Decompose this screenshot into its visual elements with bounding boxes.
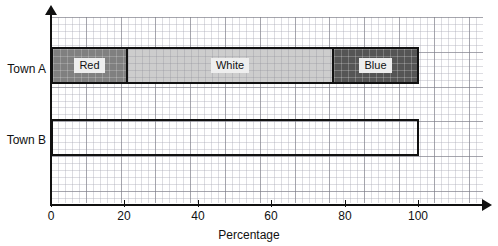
x-tick-mark [418, 200, 419, 207]
x-tick-label: 100 [408, 209, 428, 223]
x-axis-arrow-icon [482, 199, 492, 211]
x-tick-mark [345, 200, 346, 207]
category-label-town-a: Town A [0, 62, 46, 76]
category-label-town-b: Town B [0, 133, 46, 147]
bar-segment-white-label: White [211, 58, 249, 73]
x-tick-mark [198, 200, 199, 207]
bar-segment-red: Red [53, 49, 126, 82]
x-tick-mark [124, 200, 125, 207]
bar-segment-red-label: Red [74, 58, 104, 73]
x-tick-label: 80 [338, 209, 351, 223]
bar-town-b [51, 119, 419, 156]
bar-segment-blue: Blue [332, 49, 417, 82]
x-tick-label: 60 [264, 209, 277, 223]
bar-segment-white: White [126, 49, 332, 82]
y-axis-arrow-icon [45, 5, 57, 15]
x-tick-label: 40 [191, 209, 204, 223]
stacked-bar-chart: 0 20 40 60 80 100 Percentage Town A Town… [0, 0, 498, 246]
bar-town-a: Red White Blue [51, 47, 419, 84]
x-axis-title: Percentage [0, 228, 498, 242]
bar-segment-empty [53, 121, 417, 154]
grid-background [51, 17, 483, 203]
y-axis-line [50, 13, 52, 206]
x-tick-mark [271, 200, 272, 207]
x-tick-label: 0 [48, 209, 55, 223]
x-tick-label: 20 [117, 209, 130, 223]
cut-off-caption [8, 0, 478, 4]
bar-segment-blue-label: Blue [359, 58, 391, 73]
x-tick-mark [51, 200, 52, 207]
